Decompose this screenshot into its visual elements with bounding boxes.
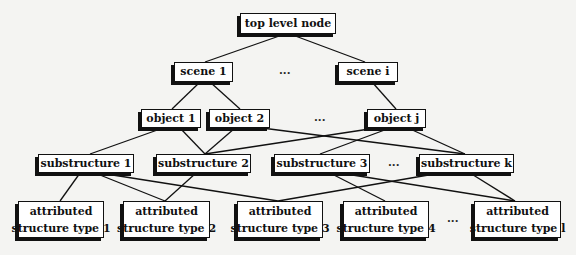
node-label: substructure 3 <box>276 156 367 172</box>
node-label: substructure 2 <box>158 156 249 172</box>
node-scene-i: scene i <box>338 62 398 82</box>
node-label-line2: structure type l <box>470 220 566 237</box>
node-label: scene i <box>347 64 390 80</box>
node-label-line1: attributed <box>486 203 549 220</box>
node-label-line2: structure type 3 <box>230 220 329 237</box>
node-label-line1: attributed <box>135 203 198 220</box>
node-attributed-structure-type-l: attributedstructure type l <box>474 201 561 238</box>
node-label-line2: structure type 4 <box>336 220 435 237</box>
node-substructure-1: substructure 1 <box>38 154 134 173</box>
ellipsis-substructures: ... <box>388 156 400 169</box>
ellipsis-leaves: ... <box>447 212 459 225</box>
node-substructure-2: substructure 2 <box>156 154 251 173</box>
node-substructure-3: substructure 3 <box>274 154 370 173</box>
node-label-line1: attributed <box>355 203 418 220</box>
node-scene-1: scene 1 <box>174 62 233 82</box>
node-label: object j <box>374 111 420 127</box>
node-attributed-structure-type-1: attributedstructure type 1 <box>18 201 104 238</box>
node-label-line1: attributed <box>30 203 93 220</box>
ellipsis-objects: ... <box>314 111 326 124</box>
node-attributed-structure-type-4: attributedstructure type 4 <box>343 201 429 238</box>
node-label: top level node <box>245 16 332 32</box>
node-label: object 1 <box>146 111 195 127</box>
node-substructure-k: substructure k <box>419 154 514 173</box>
node-attributed-structure-type-3: attributedstructure type 3 <box>237 201 323 238</box>
node-label-line1: attributed <box>249 203 312 220</box>
ellipsis-scenes: ... <box>279 64 291 77</box>
node-object-2: object 2 <box>209 109 270 128</box>
node-attributed-structure-type-2: attributedstructure type 2 <box>123 201 210 238</box>
node-label-line2: structure type 1 <box>11 220 110 237</box>
node-object-j: object j <box>367 109 426 128</box>
node-label: scene 1 <box>180 64 226 80</box>
node-label: substructure k <box>421 156 512 172</box>
node-label: substructure 1 <box>40 156 131 172</box>
node-label-line2: structure type 2 <box>117 220 216 237</box>
node-object-1: object 1 <box>141 109 201 128</box>
node-label: object 2 <box>215 111 264 127</box>
node-top-level: top level node <box>240 13 336 34</box>
